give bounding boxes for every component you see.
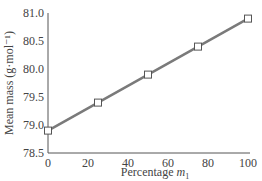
y-tick-label: 81.0 — [23, 6, 44, 20]
y-tick-label: 80.5 — [23, 34, 44, 48]
data-point-marker — [245, 15, 252, 22]
data-point-marker — [45, 127, 52, 134]
x-axis-label: Percentage m1 — [121, 165, 189, 181]
x-tick-label: 20 — [82, 156, 94, 170]
y-tick-label: 79.0 — [23, 118, 44, 132]
data-point-marker — [195, 43, 202, 50]
y-tick-labels: 78.579.079.580.080.581.0 — [23, 6, 44, 160]
y-axis-label: Mean mass (g·mol⁻¹) — [2, 31, 16, 135]
y-tick-label: 80.0 — [23, 62, 44, 76]
data-point-marker — [95, 99, 102, 106]
y-tick-label: 79.5 — [23, 90, 44, 104]
x-tick-label: 100 — [239, 156, 257, 170]
y-tick-label: 78.5 — [23, 146, 44, 160]
data-point-marker — [145, 71, 152, 78]
x-tick-label: 80 — [202, 156, 214, 170]
line-chart: 78.579.079.580.080.581.0 020406080100 Pe… — [0, 0, 262, 181]
data-series — [45, 15, 252, 134]
x-tick-label: 0 — [45, 156, 51, 170]
